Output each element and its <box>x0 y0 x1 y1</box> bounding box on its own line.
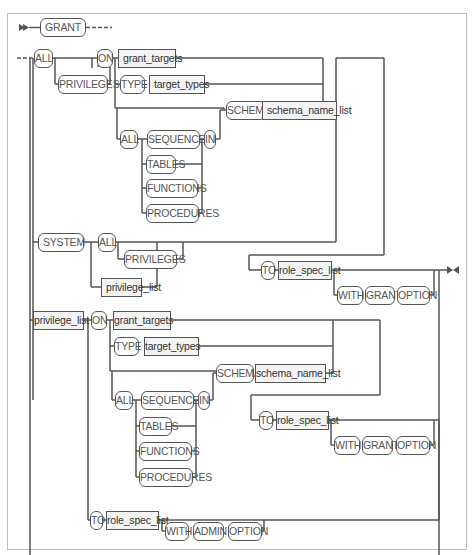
grant-targets-ref: grant_targets <box>118 49 176 68</box>
pl-all-in-keyword: ALL <box>115 391 133 410</box>
pl-sequences-keyword: SEQUENCES <box>141 391 194 410</box>
all-keyword: ALL <box>34 49 53 68</box>
schema-keyword: SCHEMA <box>226 101 266 120</box>
privilege-list-ref: privilege_list <box>33 311 84 330</box>
system-all-keyword: ALL <box>98 233 116 252</box>
functions-keyword: FUNCTIONS <box>146 179 198 198</box>
pl-schema-keyword: SCHEMA <box>216 364 254 383</box>
pl-role-spec-list-ref: role_spec_list <box>276 411 329 430</box>
pl-in-keyword: IN <box>198 391 210 410</box>
admin-to-keyword: TO <box>90 511 103 530</box>
in-keyword: IN <box>204 130 216 149</box>
system-keyword: SYSTEM <box>38 233 84 252</box>
grant-keyword: GRANT <box>40 18 86 37</box>
to-keyword: TO <box>261 261 275 280</box>
system-privileges-keyword: PRIVILEGES <box>124 250 177 269</box>
pl-procedures-keyword: PROCEDURES <box>139 468 193 487</box>
role-spec-list-ref: role_spec_list <box>278 261 332 280</box>
pl-type-keyword: TYPE <box>114 337 139 356</box>
procedures-keyword: PROCEDURES <box>146 204 199 223</box>
pl-target-types-ref: target_types <box>144 337 199 356</box>
target-types-ref: target_types <box>149 75 205 94</box>
start-arrow-icon <box>19 24 29 31</box>
pl-tables-keyword: TABLES <box>139 417 172 436</box>
type-keyword: TYPE <box>120 75 145 94</box>
schema-name-list-ref: schema_name_list <box>262 101 337 120</box>
pl-functions-keyword: FUNCTIONS <box>139 442 192 461</box>
tables-keyword: TABLES <box>146 155 176 174</box>
admin-option-keyword: OPTION <box>228 522 262 541</box>
end-arrow-icon <box>447 266 459 274</box>
pl-schema-name-list-ref: schema_name_list <box>255 364 326 383</box>
pl-option-keyword: OPTION <box>396 436 430 455</box>
all-in-keyword: ALL <box>120 130 138 149</box>
pl-with-keyword: WITH <box>334 436 360 455</box>
pl-grant-keyword: GRANT <box>362 436 393 455</box>
admin-keyword: ADMIN <box>193 522 224 541</box>
grant-option-keyword: GRANT <box>365 286 395 305</box>
sequences-keyword: SEQUENCES <box>147 130 200 149</box>
admin-with-keyword: WITH <box>165 522 189 541</box>
system-privilege-list-ref: privilege_list <box>101 278 142 297</box>
admin-role-spec-list-ref: role_spec_list <box>106 511 159 530</box>
with-keyword: WITH <box>337 286 363 305</box>
pl-to-keyword: TO <box>259 411 273 430</box>
pl-grant-targets-ref: grant_targets <box>113 311 171 330</box>
privileges-keyword: PRIVILEGES <box>58 75 108 94</box>
option-keyword: OPTION <box>397 286 430 305</box>
on-keyword: ON <box>97 49 113 68</box>
pl-on-keyword: ON <box>91 311 107 330</box>
